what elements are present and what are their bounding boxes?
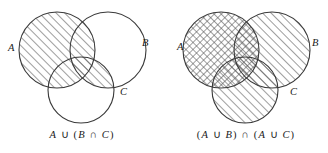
caption-right: (A ∪ B) ∩ (A ∪ C) [164,128,328,140]
caption-right-part-8: A [258,129,266,140]
caption-left: A ∪ (B ∩ C) [0,128,164,140]
caption-right-part-2: A [201,129,209,140]
caption-left-part-4: B [78,129,86,140]
venn-panel-left: A B C A ∪ (B ∩ C) [0,0,164,153]
caption-right-part-3: ∪ [213,129,222,140]
caption-left-part-2: ∪ [61,129,70,140]
caption-right-part-9: ∪ [270,129,279,140]
set-label-a-left: A [8,43,15,54]
set-label-a-right: A [177,42,184,53]
set-label-c-right: C [290,87,297,98]
venn-diagram-right [164,0,328,128]
set-label-b-left: B [142,38,149,49]
venn-figure: A B C A ∪ (B ∩ C) [0,0,328,153]
caption-left-part-1: A [49,129,57,140]
caption-right-part-4: B [226,129,234,140]
venn-panel-right: A B C (A ∪ B) ∩ (A ∪ C) [164,0,328,153]
caption-right-part-6: ∩ [241,129,250,140]
set-label-c-left: C [120,87,127,98]
venn-diagram-left [0,0,164,128]
caption-right-part-10: C [282,129,290,140]
caption-left-part-6: C [102,129,110,140]
caption-left-part-5: ∩ [89,129,98,140]
set-label-b-right: B [312,38,319,49]
caption-right-part-11: ) [291,129,296,140]
caption-left-part-7: ) [110,129,115,140]
caption-right-part-5: ) [233,129,238,140]
